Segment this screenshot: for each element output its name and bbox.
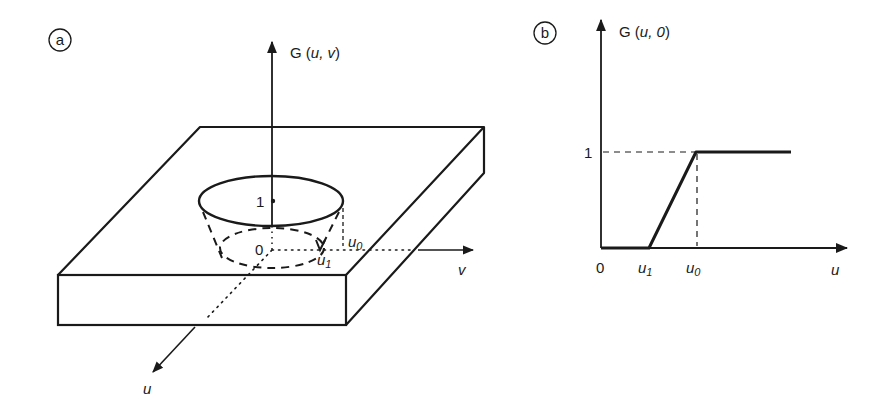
x-tick-u1: u1 [638,259,652,278]
y-axis-label: G (u, 0) [619,23,670,40]
v-axis-label: v [458,261,467,278]
panel-a-tag: a [49,29,71,51]
x-tick-u0: u0 [686,259,701,278]
slab-front-face [58,275,346,325]
tick-one-label: 1 [256,193,264,210]
u-axis-hidden [205,250,272,320]
u0-label: u0 [348,233,363,252]
origin-label: 0 [255,241,263,258]
u1-label: u1 [317,251,331,270]
tick-one-dot [271,199,275,203]
panel-b-tag: b [534,22,556,44]
u-axis-label: u [143,380,152,397]
panel-b-tag-text: b [541,24,549,41]
x-axis-label: u [831,261,840,278]
panel-a-tag-text: a [56,31,65,48]
u-axis-arrow [153,327,195,372]
panel-b: b G (u, 0) 1 0 u1 u0 u [534,20,847,278]
panel-a: a u v G (u, v) 1 [49,29,484,397]
y-tick-one: 1 [584,144,592,161]
g-axis-label: G (u, v) [290,44,340,61]
g-profile-curve [601,152,791,248]
slab-right-face [346,127,484,325]
figure-canvas: a u v G (u, v) 1 [0,0,887,416]
origin-label: 0 [596,259,604,276]
